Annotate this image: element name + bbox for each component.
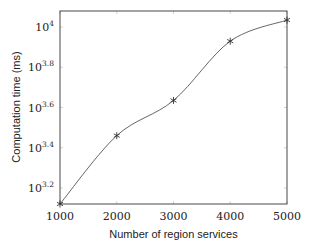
y-tick-label: 103.2 <box>28 180 54 195</box>
y-tick-label: 103.4 <box>28 140 54 155</box>
axes-frame <box>60 11 287 204</box>
x-tick-label: 4000 <box>216 210 244 223</box>
x-axis-ticks: 10002000300040005000 <box>46 11 301 223</box>
x-axis-label: Number of region services <box>109 228 238 240</box>
asterisk-marker-icon <box>227 38 233 45</box>
y-tick-label: 103.6 <box>28 100 54 115</box>
x-tick-label: 3000 <box>160 210 188 223</box>
y-axis-ticks: 103.2103.4103.6103.8104 <box>28 19 287 195</box>
data-markers <box>57 17 290 208</box>
x-tick-label: 1000 <box>46 210 74 223</box>
y-axis-label: Computation time (ms) <box>10 51 22 162</box>
x-tick-label: 5000 <box>273 210 301 223</box>
series-line <box>60 20 287 204</box>
y-tick-label: 103.8 <box>28 59 54 74</box>
line-chart: 10002000300040005000 103.2103.4103.6103.… <box>0 0 309 247</box>
y-tick-label: 104 <box>35 19 54 34</box>
x-tick-label: 2000 <box>103 210 131 223</box>
